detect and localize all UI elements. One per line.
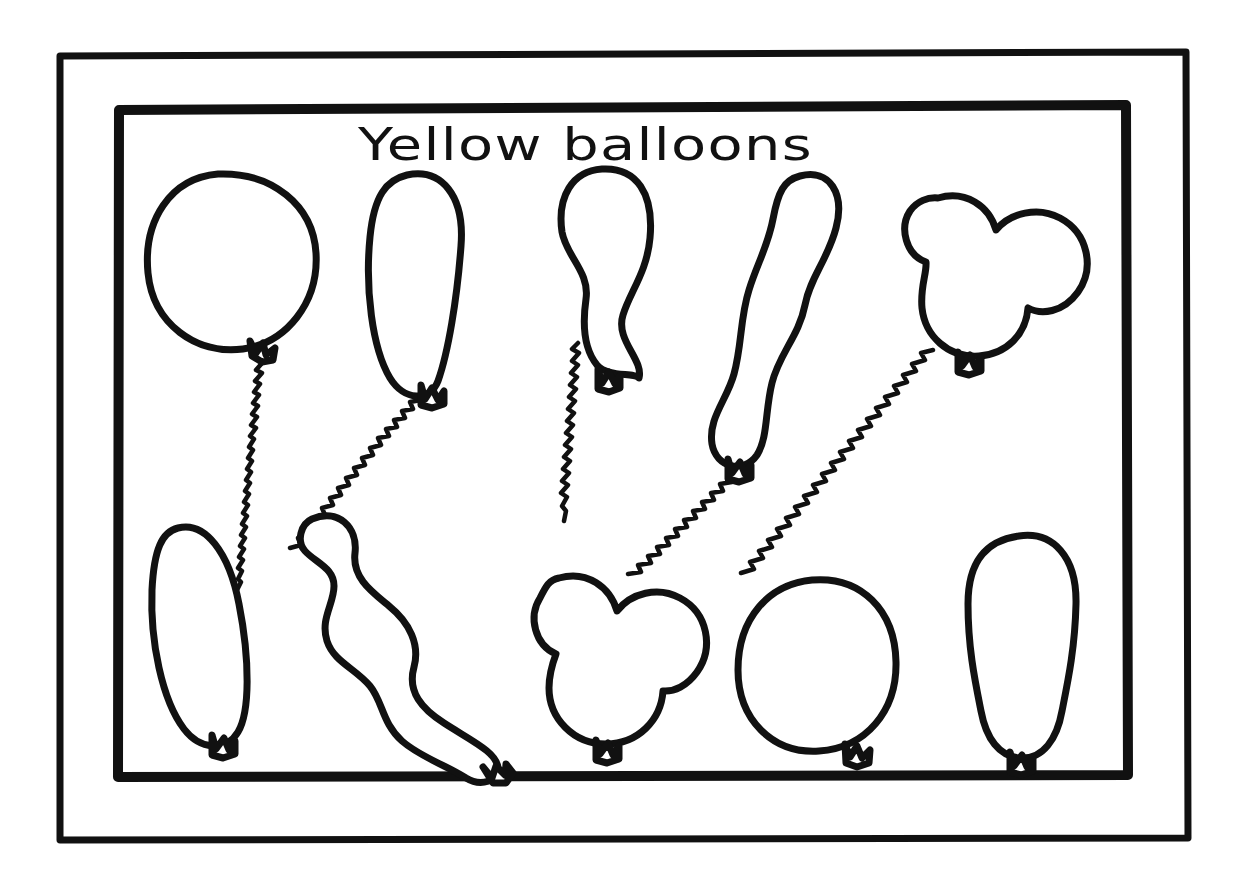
coloring-page: Yellow balloons <box>0 0 1241 892</box>
balloons-line-drawing: Yellow balloons <box>0 0 1241 892</box>
round-balloon-top-left <box>147 174 316 350</box>
page-title: Yellow balloons <box>357 119 813 170</box>
oval-balloon-bottom-right <box>968 535 1076 758</box>
round-balloon-bottom-4 <box>738 580 896 751</box>
